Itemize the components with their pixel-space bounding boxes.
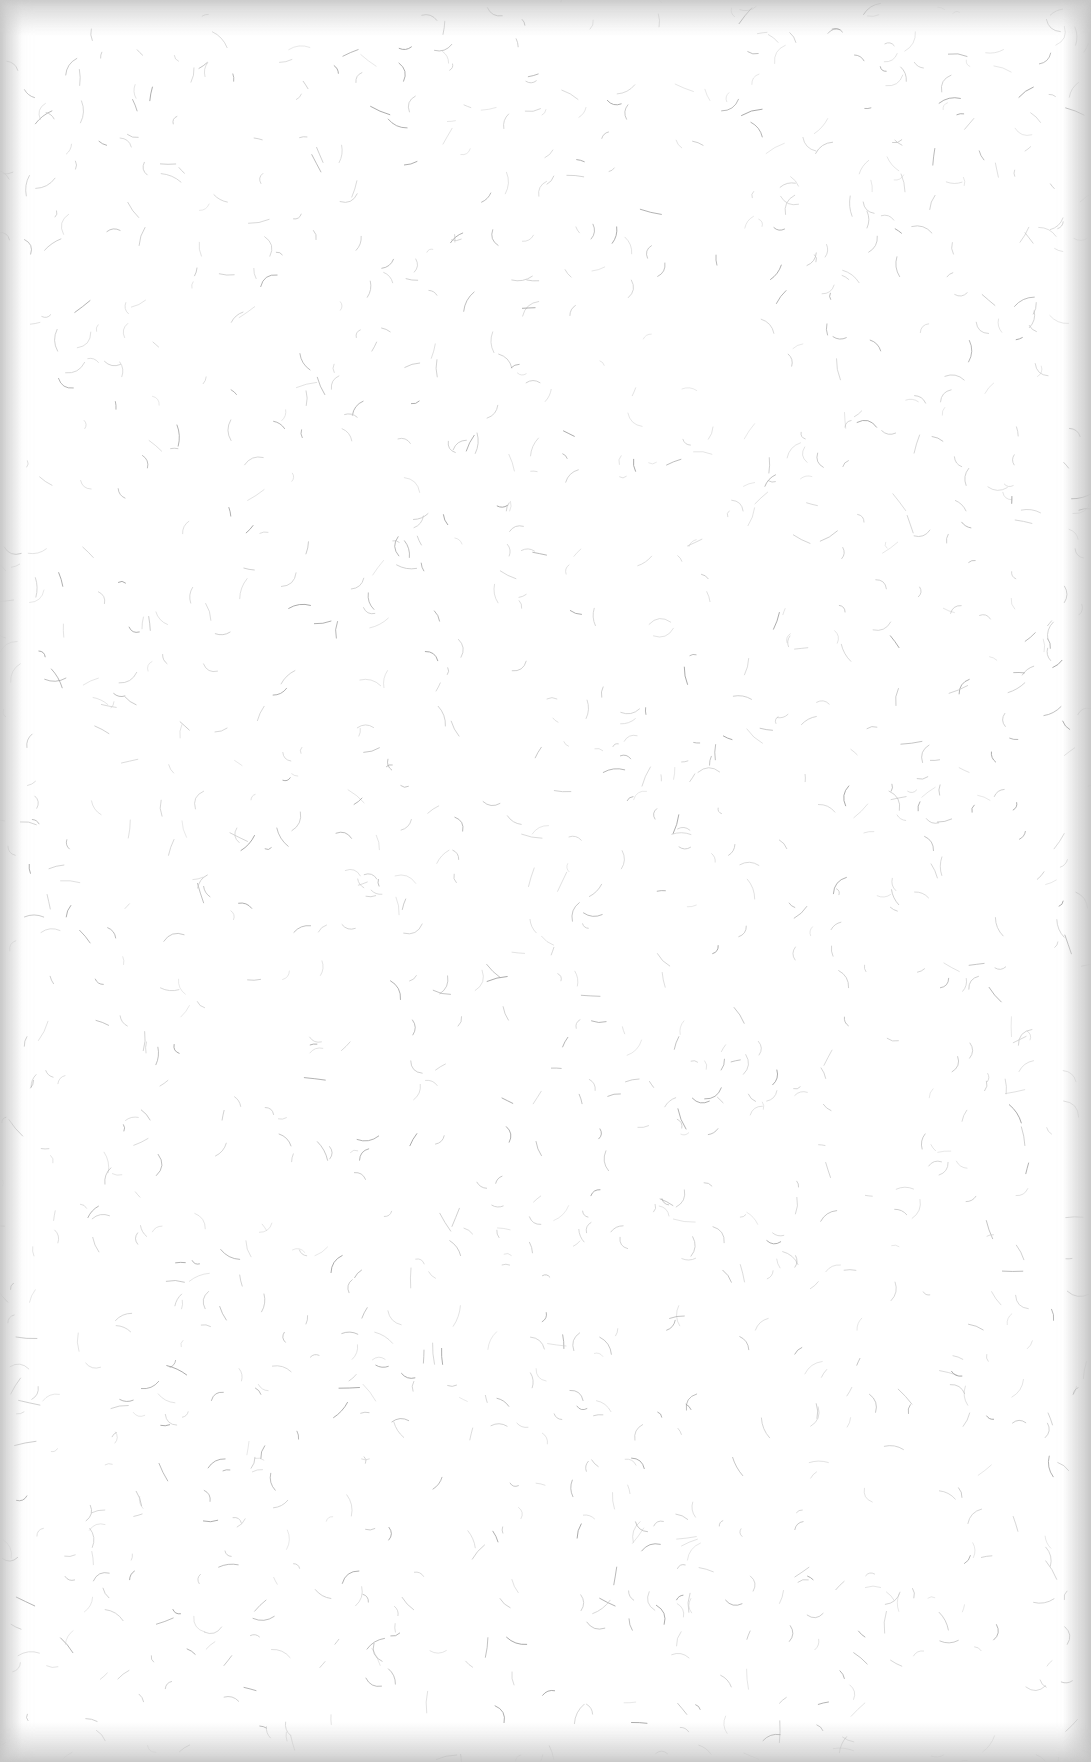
paper-sheet xyxy=(0,0,1091,1762)
paper-fiber-texture xyxy=(0,0,1091,1762)
